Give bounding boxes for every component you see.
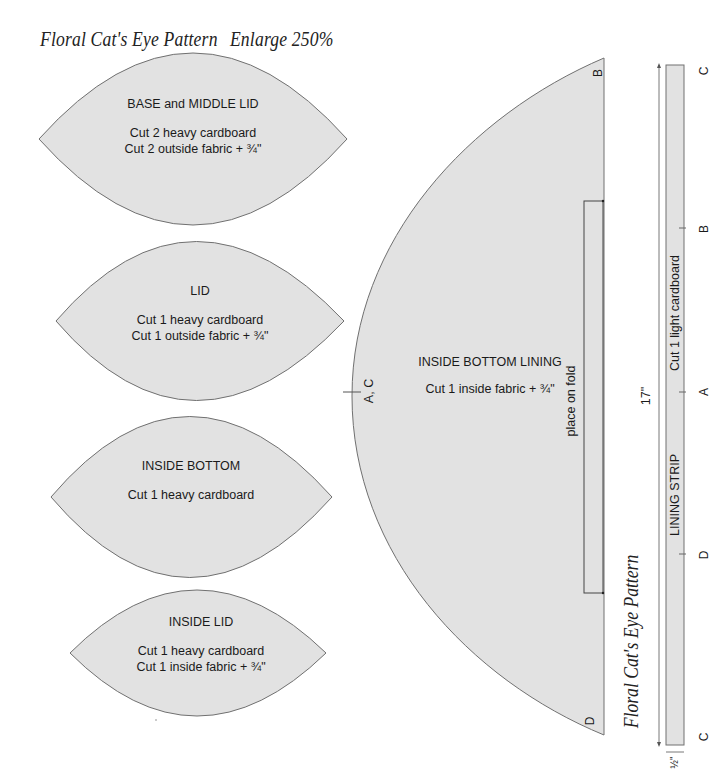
piece-lining-strip	[666, 65, 684, 745]
side-title: Floral Cat's Eye Pattern	[620, 545, 643, 739]
strip-mark-c-bottom: C	[697, 733, 711, 742]
strip-cut-label: Cut 1 light cardboard	[668, 253, 682, 373]
label-base-middle-lid: BASE and MIDDLE LID Cut 2 heavy cardboar…	[93, 96, 293, 157]
label-inside-lid: INSIDE LID Cut 1 heavy cardboard Cut 1 i…	[101, 614, 301, 675]
mark-a-c: A, C	[362, 371, 376, 411]
strip-length-label: 17"	[639, 376, 653, 416]
strip-mark-c-top: C	[697, 67, 711, 76]
mark-b-lining: B	[591, 69, 605, 77]
label-inside-bottom: INSIDE BOTTOM Cut 1 heavy cardboard	[91, 458, 291, 503]
strip-mark-b: B	[697, 225, 711, 233]
place-on-fold-label: place on fold	[564, 351, 578, 451]
strip-name-label: LINING STRIP	[668, 450, 682, 540]
label-inside-bottom-lining: INSIDE BOTTOM LINING Cut 1 inside fabric…	[390, 354, 590, 397]
stray-dot	[155, 719, 157, 721]
mark-d-lining: D	[583, 717, 597, 726]
strip-width-label: ½"	[669, 750, 680, 775]
label-lid: LID Cut 1 heavy cardboard Cut 1 outside …	[100, 283, 300, 344]
strip-mark-d: D	[697, 551, 711, 560]
strip-mark-a: A	[697, 388, 711, 396]
